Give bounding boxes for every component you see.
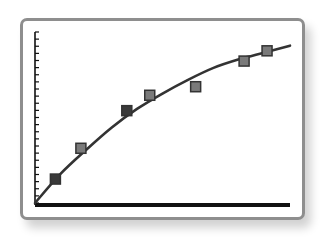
- scatter-plot: [0, 0, 328, 237]
- data-point-marker: [122, 106, 132, 116]
- data-point-marker: [239, 56, 249, 66]
- y-axis: [35, 32, 39, 205]
- fit-curve: [35, 46, 290, 203]
- data-point-marker: [262, 46, 272, 56]
- data-point-marker: [145, 90, 155, 100]
- stage: [0, 0, 328, 237]
- data-point-marker: [76, 143, 86, 153]
- data-point-marker: [191, 82, 201, 92]
- data-markers: [50, 46, 272, 184]
- data-point-marker: [50, 174, 60, 184]
